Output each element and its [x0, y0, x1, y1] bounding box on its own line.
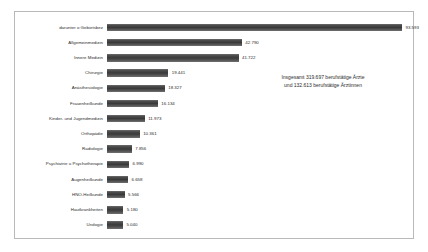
bar [107, 39, 242, 47]
bar-value-label: 5.566 [128, 192, 139, 198]
bar-row: Innere Medizin41.722 [15, 51, 413, 64]
bar-wrapper: 5.180 [107, 203, 413, 216]
bar [107, 176, 128, 184]
bar-value-label: 7.856 [135, 146, 146, 152]
chart-annotation: Insgesamt 319.697 berufstätige Ärzte und… [243, 74, 403, 89]
plot-area: darunter o Gebietsbez93.593Allgemeinmedi… [15, 12, 413, 238]
bar [107, 161, 129, 169]
bar [107, 221, 123, 229]
bar-value-label: 18.327 [168, 85, 181, 91]
bar-wrapper: 11.973 [107, 112, 413, 125]
bar-value-label: 19.441 [172, 70, 185, 76]
bar [107, 130, 140, 138]
bar [107, 24, 402, 32]
chart-frame: darunter o Gebietsbez93.593Allgemeinmedi… [14, 11, 414, 239]
bar-row: Radiologie7.856 [15, 143, 413, 156]
bar-row: HNO-Heilkunde5.566 [15, 188, 413, 201]
bar-wrapper: 93.593 [107, 21, 419, 34]
bar-value-label: 6.658 [131, 177, 142, 183]
category-label: Kinder- und Jugendmedizin [15, 116, 107, 122]
bar-value-label: 93.593 [406, 25, 419, 31]
category-label: Hautkrankheiten [15, 207, 107, 213]
bar-row: Kinder- und Jugendmedizin11.973 [15, 112, 413, 125]
bar [107, 115, 145, 123]
bar-row: Orthopädie10.361 [15, 127, 413, 140]
category-label: Augenheilkunde [15, 177, 107, 183]
bar-wrapper: 7.856 [107, 143, 413, 156]
bar [107, 85, 165, 93]
category-label: Radiologie [15, 146, 107, 152]
bar [107, 145, 132, 153]
bar-row: Augenheilkunde6.658 [15, 173, 413, 186]
bar-wrapper: 41.722 [107, 51, 413, 64]
bar-value-label: 5.040 [126, 222, 137, 228]
bar-row: Hautkrankheiten5.180 [15, 203, 413, 216]
bar-value-label: 41.722 [242, 55, 255, 61]
category-label: Frauenheilkunde [15, 101, 107, 107]
bar-row: Frauenheilkunde16.134 [15, 97, 413, 110]
bar [107, 54, 239, 62]
category-label: HNO-Heilkunde [15, 192, 107, 198]
bar-wrapper: 5.040 [107, 219, 413, 232]
bar [107, 100, 158, 108]
bar-value-label: 5.180 [127, 207, 138, 213]
category-label: Psychiatrie u Psychotherapie [15, 161, 107, 167]
bar-row: Allgemeinmedizin42.790 [15, 36, 413, 49]
category-label: Innere Medizin [15, 55, 107, 61]
bar-value-label: 16.134 [161, 101, 174, 107]
bar-wrapper: 6.658 [107, 173, 413, 186]
bar-value-label: 10.361 [143, 131, 156, 137]
bar-wrapper: 6.990 [107, 158, 413, 171]
bar-wrapper: 5.566 [107, 188, 413, 201]
bar-value-label: 11.973 [148, 116, 161, 122]
bar-value-label: 6.990 [133, 161, 144, 167]
category-label: Allgemeinmedizin [15, 40, 107, 46]
bar-value-label: 42.790 [245, 40, 258, 46]
bar-wrapper: 42.790 [107, 36, 413, 49]
category-label: Chirurgie [15, 70, 107, 76]
category-label: Orthopädie [15, 131, 107, 137]
bar [107, 191, 125, 199]
bar [107, 206, 123, 214]
annotation-line-1: Insgesamt 319.697 berufstätige Ärzte [243, 74, 403, 82]
bar-row: Psychiatrie u Psychotherapie6.990 [15, 158, 413, 171]
bar-row: Urologie5.040 [15, 219, 413, 232]
annotation-line-2: und 132.613 berufstätige Ärztinnen [243, 82, 403, 90]
bar [107, 69, 168, 77]
category-label: Urologie [15, 222, 107, 228]
bar-wrapper: 10.361 [107, 127, 413, 140]
bar-wrapper: 16.134 [107, 97, 413, 110]
category-label: Anästhesiologie [15, 85, 107, 91]
bar-row: darunter o Gebietsbez93.593 [15, 21, 413, 34]
category-label: darunter o Gebietsbez [15, 25, 107, 31]
